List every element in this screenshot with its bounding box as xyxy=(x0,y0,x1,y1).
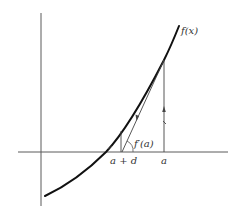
label-f-prime-a: f′(a) xyxy=(133,138,154,149)
newton-method-diagram: f(x) f′(a) a + d a xyxy=(0,0,242,213)
label-a-plus-d: a + d xyxy=(110,155,137,166)
function-curve xyxy=(45,26,179,196)
label-fx: f(x) xyxy=(180,25,198,36)
tick-mark-icon xyxy=(163,121,166,124)
angle-arc-icon xyxy=(127,141,133,152)
up-arrow-icon xyxy=(162,106,166,112)
label-a: a xyxy=(161,155,167,166)
